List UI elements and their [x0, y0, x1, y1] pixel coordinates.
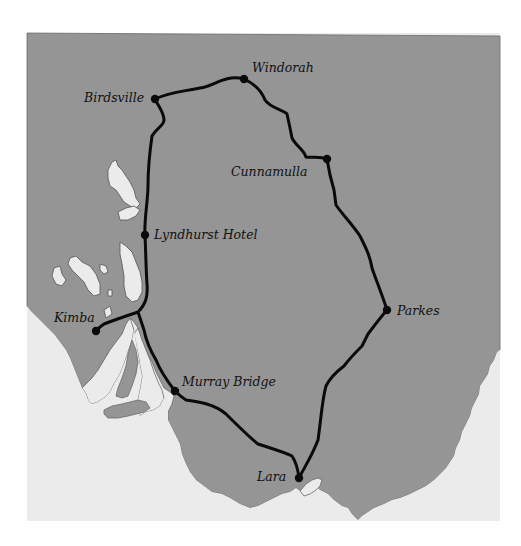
label-cunnamulla: Cunnamulla [231, 164, 308, 179]
small-lake-2 [108, 290, 112, 296]
stop-dot-cunnamulla[interactable] [323, 155, 331, 163]
label-kimba: Kimba [53, 310, 95, 325]
stop-dot-birdsville[interactable] [151, 95, 159, 103]
stop-dot-lara[interactable] [295, 474, 303, 482]
stop-dot-windorah[interactable] [240, 75, 248, 83]
label-birdsville: Birdsville [83, 90, 144, 105]
stop-dot-kimba[interactable] [92, 327, 100, 335]
stop-dot-parkes[interactable] [383, 306, 391, 314]
label-lyndhurst-hotel: Lyndhurst Hotel [153, 227, 258, 242]
stop-dot-lyndhurst-hotel[interactable] [141, 231, 149, 239]
stop-dot-murray-bridge[interactable] [171, 387, 179, 395]
label-windorah: Windorah [252, 60, 314, 75]
route-map: Windorah Birdsville Cunnamulla Lyndhurst… [0, 0, 521, 546]
label-parkes: Parkes [396, 303, 440, 318]
map-canvas: Windorah Birdsville Cunnamulla Lyndhurst… [0, 0, 521, 546]
label-murray-bridge: Murray Bridge [181, 374, 276, 389]
label-lara: Lara [256, 469, 286, 484]
